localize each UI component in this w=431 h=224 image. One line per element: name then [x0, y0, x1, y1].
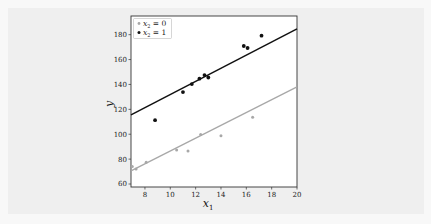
legend-marker-x2-0 [138, 22, 141, 25]
data-point-series-0 [219, 134, 222, 137]
data-point-series-0 [251, 116, 254, 119]
data-point-series-0 [145, 161, 148, 164]
data-point-series-0 [131, 165, 134, 168]
legend-label-x2-1: x2 = 1 [143, 28, 166, 38]
x-tick-label: 18 [267, 191, 276, 199]
y-tick-label: 60 [118, 180, 127, 188]
legend-marker-x2-1 [138, 31, 141, 34]
x-tick-label: 16 [242, 191, 251, 199]
data-point-series-1 [198, 77, 202, 81]
data-point-series-1 [206, 76, 210, 80]
y-tick-label: 80 [118, 156, 127, 164]
data-point-series-0 [187, 149, 190, 152]
x-tick-label: 12 [191, 191, 200, 199]
data-point-series-0 [175, 148, 178, 151]
scatter-chart: 81012141618206080100120140160180 x1 y x2… [0, 0, 431, 224]
data-point-series-1 [242, 44, 246, 48]
data-point-series-0 [199, 133, 202, 136]
data-point-series-1 [203, 73, 207, 77]
data-point-series-1 [181, 90, 185, 94]
data-point-series-0 [135, 168, 138, 171]
data-point-series-1 [246, 46, 250, 50]
data-point-series-1 [190, 82, 194, 86]
y-axis-label: y [103, 100, 116, 108]
data-point-series-1 [153, 118, 157, 122]
y-tick-label: 100 [114, 131, 127, 139]
x-tick-label: 20 [293, 191, 302, 199]
y-tick-label: 180 [114, 31, 127, 39]
legend: x2 = 0 x2 = 1 [134, 19, 172, 39]
y-tick-label: 140 [114, 81, 127, 89]
x-tick-label: 8 [143, 191, 147, 199]
y-tick-label: 160 [114, 56, 127, 64]
data-point-series-1 [260, 34, 264, 38]
x-tick-label: 10 [166, 191, 175, 199]
x-axis-label: x1 [203, 197, 214, 212]
x-tick-label: 14 [217, 191, 226, 199]
